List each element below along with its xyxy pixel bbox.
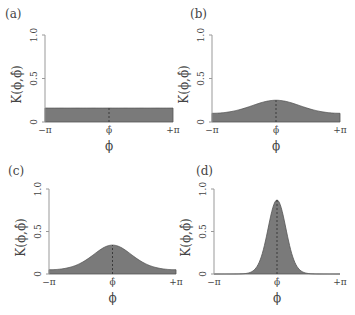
y-tick-label: 0 [33,271,43,277]
x-axis-label: ϕ [273,291,281,305]
panel-a: (a)00.51.0K(ϕ,ϕ̂)−πϕ̂+πϕ [5,7,180,153]
x-tick-label: −π [205,125,219,135]
panel-b: (b)00.51.0K(ϕ,ϕ̂)−πϕ̂+πϕ [177,7,347,153]
y-tick-label: 0.5 [198,224,208,239]
y-tick-label: 0 [198,271,208,277]
y-tick-label: 0.5 [29,71,39,86]
x-axis-label: ϕ [272,139,280,153]
panel-label: (c) [8,164,24,178]
panel-label: (b) [190,7,207,21]
y-axis-label: K(ϕ,ϕ̂) [14,218,28,257]
y-tick-label: 1.0 [33,182,43,197]
y-tick-label: 0 [29,119,39,125]
kernel-figure: (a)00.51.0K(ϕ,ϕ̂)−πϕ̂+πϕ(b)00.51.0K(ϕ,ϕ̂… [0,0,355,315]
x-tick-label: +π [169,277,183,287]
figure: (a)00.51.0K(ϕ,ϕ̂)−πϕ̂+πϕ(b)00.51.0K(ϕ,ϕ̂… [0,0,355,315]
x-tick-label: −π [207,277,221,287]
y-axis-label: K(ϕ,ϕ̂) [10,65,24,104]
x-tick-label: ϕ̂ [106,125,112,135]
x-axis-label: ϕ [108,291,116,305]
panel-label: (d) [196,164,213,178]
x-tick-label: −π [38,125,52,135]
x-tick-label: +π [166,125,180,135]
y-tick-label: 1.0 [198,182,208,197]
x-tick-label: ϕ̂ [274,277,280,287]
panel-d: (d)00.51.0K(ϕ,ϕ̂)−πϕ̂+πϕ [179,164,347,305]
x-axis-label: ϕ [105,139,113,153]
x-tick-label: −π [42,277,56,287]
kernel-area [212,100,340,122]
y-axis-label: K(ϕ,ϕ̂) [177,65,191,104]
x-tick-label: +π [333,277,347,287]
x-tick-label: ϕ̂ [109,277,115,287]
y-tick-label: 0 [196,119,206,125]
y-tick-label: 1.0 [29,28,39,43]
y-tick-label: 0.5 [33,224,43,239]
x-tick-label: ϕ̂ [273,125,279,135]
panel-label: (a) [5,7,22,21]
y-axis-label: K(ϕ,ϕ̂) [179,218,193,257]
y-tick-label: 0.5 [196,71,206,86]
kernel-area [45,108,173,122]
x-tick-label: +π [333,125,347,135]
y-tick-label: 1.0 [196,28,206,43]
panel-c: (c)00.51.0K(ϕ,ϕ̂)−πϕ̂+πϕ [8,164,183,305]
